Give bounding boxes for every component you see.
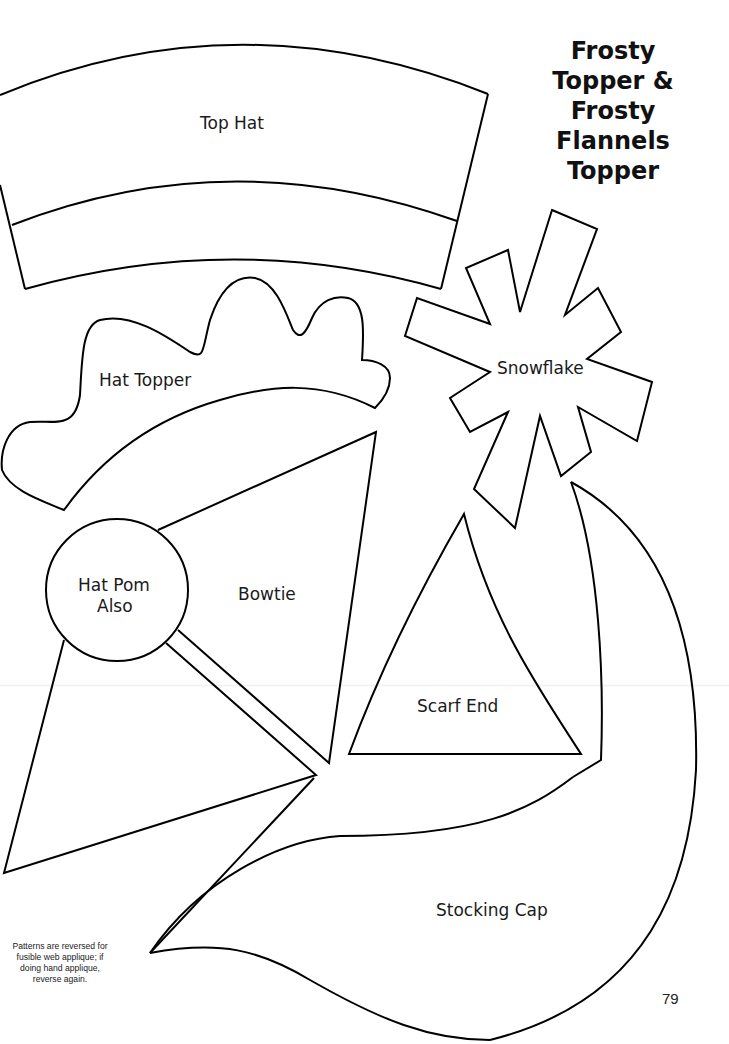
note-line: doing hand applique, bbox=[2, 963, 118, 974]
bowtie-label: Bowtie bbox=[238, 583, 296, 605]
page-title: Frosty Topper & Frosty Flannels Topper bbox=[548, 36, 678, 186]
hat-topper-label: Hat Topper bbox=[99, 369, 191, 391]
title-line: Topper & bbox=[548, 66, 678, 96]
title-line: Frosty bbox=[548, 36, 678, 66]
stocking-cap-shape bbox=[150, 482, 696, 1040]
title-line: Frosty bbox=[548, 96, 678, 126]
top-hat-shape bbox=[0, 45, 488, 289]
title-line: Flannels bbox=[548, 126, 678, 156]
note-line: reverse again. bbox=[2, 974, 118, 985]
hat-pom-label-line2: Also bbox=[97, 595, 133, 617]
note-line: fusible web applique; if bbox=[2, 952, 118, 963]
pattern-page: Frosty Topper & Frosty Flannels Topper T… bbox=[0, 0, 729, 1044]
snowflake-label: Snowflake bbox=[497, 357, 584, 379]
top-hat-label: Top Hat bbox=[200, 112, 264, 134]
stocking-cap-label: Stocking Cap bbox=[436, 899, 548, 921]
scarf-end-label: Scarf End bbox=[417, 695, 498, 717]
reversal-note: Patterns are reversed for fusible web ap… bbox=[2, 941, 118, 985]
bowtie-shape bbox=[4, 432, 376, 873]
hat-pom-label-line1: Hat Pom bbox=[78, 574, 150, 596]
note-line: Patterns are reversed for bbox=[2, 941, 118, 952]
title-line: Topper bbox=[548, 156, 678, 186]
page-number: 79 bbox=[662, 990, 679, 1007]
scarf-end-shape bbox=[349, 514, 581, 754]
hat-topper-shape bbox=[2, 278, 390, 510]
